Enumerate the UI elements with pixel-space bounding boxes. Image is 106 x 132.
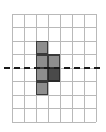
cell-c2-r3 (37, 55, 48, 68)
cell-c2-r4 (37, 69, 48, 82)
grid-figure-svg (0, 0, 106, 132)
figure-container (0, 0, 106, 132)
cell-c3-r4 (49, 69, 60, 82)
cell-c2-r2 (37, 42, 48, 55)
cell-c2-r5 (37, 82, 48, 95)
cell-c3-r3 (49, 55, 60, 68)
